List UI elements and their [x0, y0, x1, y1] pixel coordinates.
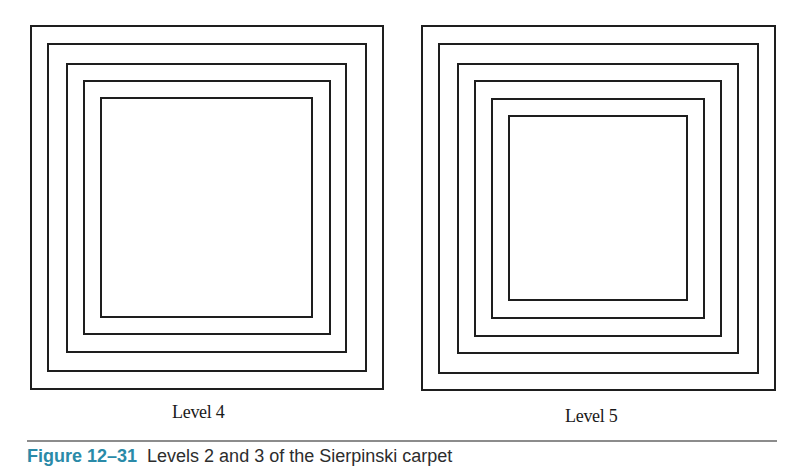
figure-caption: Figure 12–31Levels 2 and 3 of the Sierpi…: [27, 446, 452, 466]
nested-square-6: [508, 115, 688, 301]
caption-divider: [27, 440, 777, 442]
figure-number: Figure 12–31: [27, 446, 137, 466]
nested-square-5: [100, 97, 313, 318]
figure-caption-text: Levels 2 and 3 of the Sierpinski carpet: [147, 446, 452, 466]
level-5-label: Level 5: [565, 406, 617, 427]
level-4-label: Level 4: [172, 402, 224, 423]
